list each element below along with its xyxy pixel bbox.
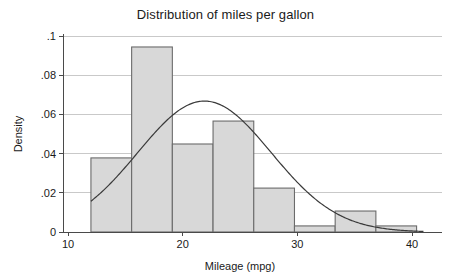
x-tick-label: 10 xyxy=(62,238,74,250)
x-axis-label: Mileage (mpg) xyxy=(205,260,275,272)
x-tick-label: 30 xyxy=(291,238,303,250)
y-tick-label: .04 xyxy=(41,148,56,160)
histogram-bar xyxy=(294,226,335,232)
histogram-bar xyxy=(172,144,213,232)
histogram-bar xyxy=(254,188,295,232)
y-axis-label: Density xyxy=(12,115,24,152)
y-tick-label: .1 xyxy=(47,30,56,42)
x-tick-label: 40 xyxy=(406,238,418,250)
y-tick-label: 0 xyxy=(50,226,56,238)
y-tick-label: .08 xyxy=(41,69,56,81)
histogram-bar xyxy=(213,121,254,232)
x-axis-ticks: 10203040 xyxy=(62,232,418,250)
histogram-bar xyxy=(132,47,173,232)
histogram-chart: Distribution of miles per gallon 0.02.04… xyxy=(0,0,451,280)
y-tick-label: .02 xyxy=(41,187,56,199)
plot-area: 0.02.04.06.08.1 10203040 Density Mileage… xyxy=(0,0,451,280)
y-tick-label: .06 xyxy=(41,108,56,120)
histogram-bar xyxy=(91,158,132,232)
x-tick-label: 20 xyxy=(177,238,189,250)
y-axis-ticks: 0.02.04.06.08.1 xyxy=(41,30,63,238)
